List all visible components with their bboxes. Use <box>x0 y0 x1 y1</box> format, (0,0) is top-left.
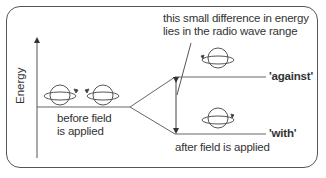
against-label: 'against' <box>269 70 313 83</box>
annotation-line2: lies in the radio wave range <box>163 25 297 38</box>
spinning-nucleus-icon-2 <box>85 85 119 105</box>
after-field-label: after field is applied <box>175 141 270 154</box>
y-axis-label: Energy <box>14 68 26 104</box>
split-line-down <box>130 107 175 134</box>
nucleus-with-icon <box>202 108 234 128</box>
before-field-label-line1: before field <box>57 112 112 125</box>
annotation-line1: this small difference in energy <box>163 12 309 25</box>
with-label: 'with' <box>269 127 296 140</box>
spinning-nucleus-icon-1 <box>44 85 78 105</box>
nucleus-against-icon <box>201 48 234 68</box>
annotation-pointer <box>177 43 191 95</box>
split-line-up <box>130 77 175 107</box>
before-field-label-line2: is applied <box>57 125 104 138</box>
